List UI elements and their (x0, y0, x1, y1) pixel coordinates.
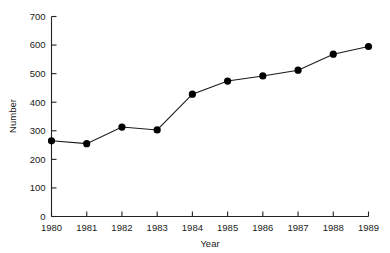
data-point-marker (83, 140, 90, 147)
x-tick-label: 1984 (182, 222, 203, 233)
y-tick-label: 0 (40, 211, 45, 222)
x-tick-label: 1981 (76, 222, 97, 233)
y-tick-label: 700 (30, 11, 46, 22)
x-tick-label: 1987 (287, 222, 308, 233)
x-tick-label: 1986 (252, 222, 273, 233)
chart-container: 0100200300400500600700 Number 1980198119… (0, 0, 390, 253)
y-tick-label: 300 (30, 125, 46, 136)
data-point-marker (189, 91, 196, 98)
data-point-marker (365, 43, 372, 50)
data-point-marker (48, 137, 55, 144)
x-tick-label: 1980 (41, 222, 62, 233)
data-point-marker (259, 72, 266, 79)
y-tick-label: 100 (30, 182, 46, 193)
y-tick-label: 400 (30, 97, 46, 108)
line-chart: 0100200300400500600700 Number 1980198119… (0, 0, 390, 253)
x-tick-label: 1982 (111, 222, 132, 233)
x-axis-title: Year (200, 238, 219, 249)
x-tick-label: 1983 (147, 222, 168, 233)
x-tick-label: 1988 (323, 222, 344, 233)
data-point-marker (224, 77, 231, 84)
y-tick-label: 600 (30, 39, 46, 50)
y-tick-label: 500 (30, 68, 46, 79)
data-point-marker (154, 126, 161, 133)
x-tick-label: 1985 (217, 222, 238, 233)
data-point-marker (118, 123, 125, 130)
x-tick-label: 1989 (358, 222, 379, 233)
y-tick-label: 200 (30, 154, 46, 165)
data-point-marker (330, 51, 337, 58)
chart-background (0, 0, 390, 253)
y-axis-title: Number (7, 99, 18, 133)
data-point-marker (294, 67, 301, 74)
